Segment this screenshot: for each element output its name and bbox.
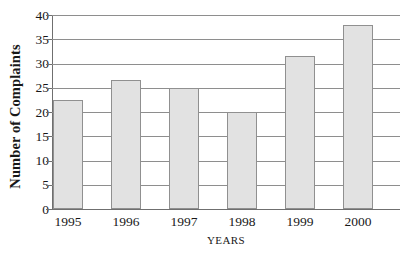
y-axis-tick-mark xyxy=(46,209,52,210)
y-axis-tick-mark xyxy=(46,161,52,162)
bar xyxy=(285,56,315,209)
gridline xyxy=(52,209,400,210)
x-axis-tick-label: 1995 xyxy=(43,214,93,229)
x-axis-tick-label: 2000 xyxy=(333,214,383,229)
bar xyxy=(169,88,199,209)
y-axis-tick-mark xyxy=(46,64,52,65)
y-axis-tick-mark xyxy=(46,88,52,89)
y-axis-tick-mark xyxy=(46,136,52,137)
plot-area xyxy=(52,15,400,209)
y-axis-tick-mark xyxy=(46,112,52,113)
x-axis-tick-labels: 199519961997199819992000 xyxy=(52,214,400,234)
x-axis-title: YEARS xyxy=(52,234,400,246)
x-axis-tick-label: 1996 xyxy=(101,214,151,229)
x-axis-tick-label: 1997 xyxy=(159,214,209,229)
bar xyxy=(53,100,83,209)
x-axis-tick-label: 1999 xyxy=(275,214,325,229)
y-axis-tick-mark xyxy=(46,39,52,40)
bar-chart-figure: Number of Complaints 0510152025303540 19… xyxy=(0,0,410,258)
y-axis-tick-mark xyxy=(46,15,52,16)
bar xyxy=(111,80,141,209)
y-axis-title: Number of Complaints xyxy=(7,17,24,217)
y-axis-tick-mark xyxy=(46,185,52,186)
bar xyxy=(343,25,373,209)
x-axis-tick-label: 1998 xyxy=(217,214,267,229)
bar xyxy=(227,112,257,209)
gridline xyxy=(52,15,400,16)
